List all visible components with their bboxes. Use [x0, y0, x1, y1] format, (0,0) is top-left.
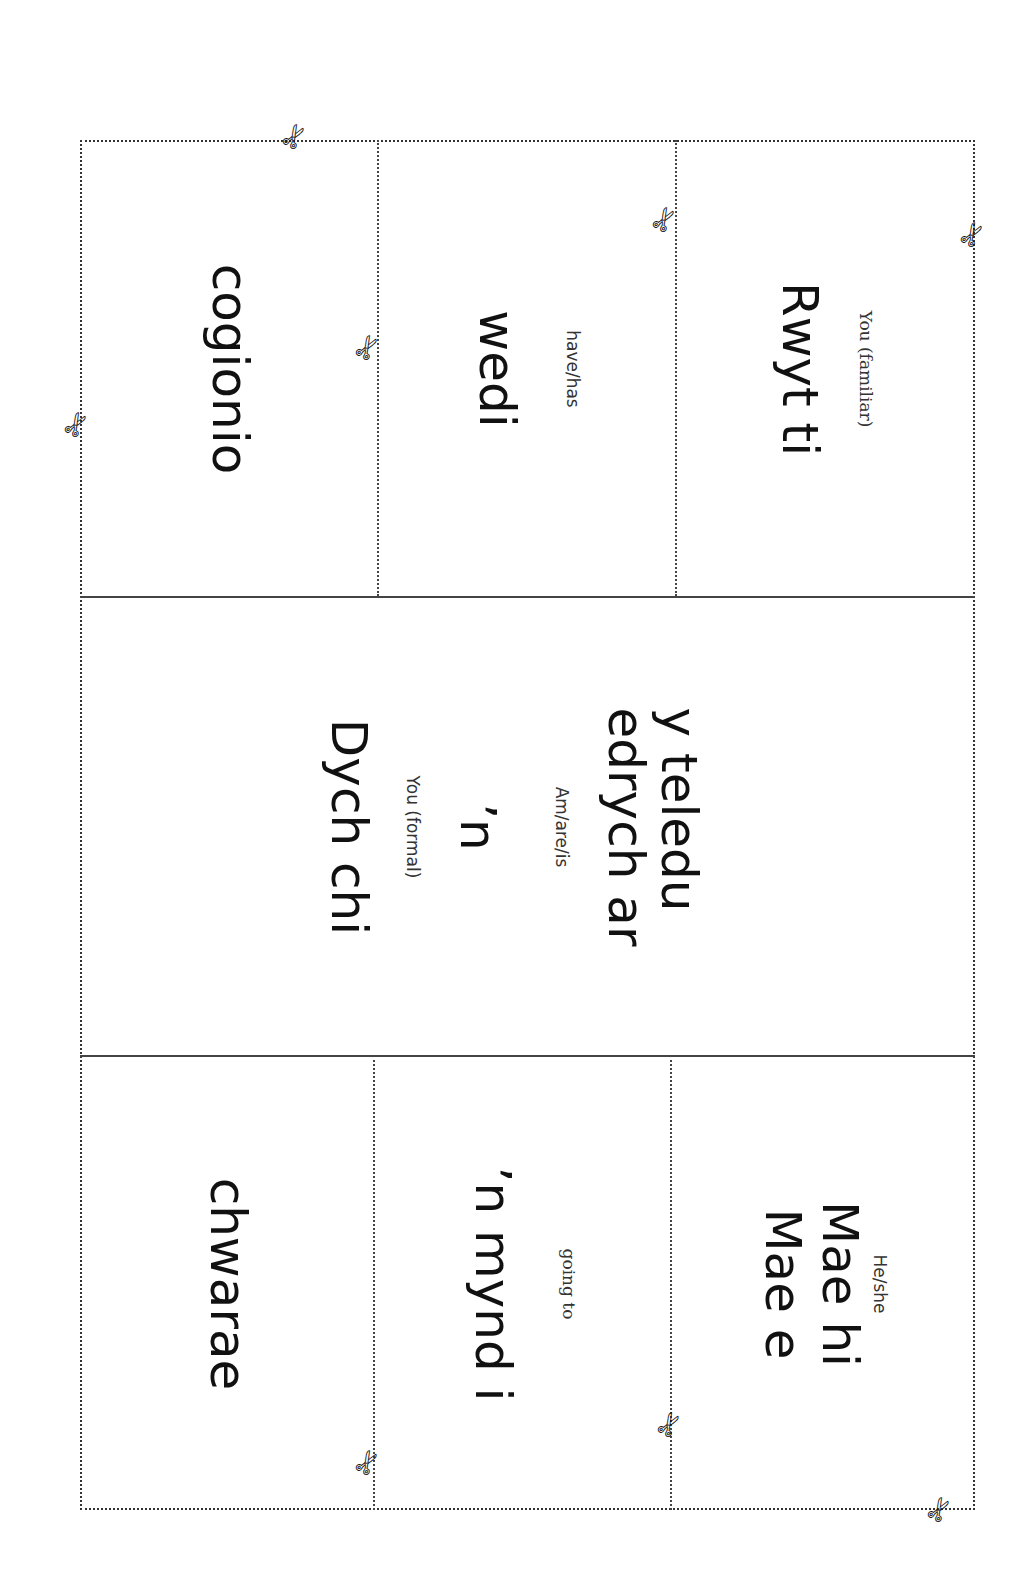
- card-n-mynd-i[interactable]: ’n mynd i going to: [375, 1057, 670, 1510]
- card-wedi[interactable]: wedi have/has: [379, 142, 675, 596]
- card-word-line1: Mae e: [756, 1208, 809, 1359]
- card-gloss: have/has: [563, 330, 583, 408]
- card-activity-line1: edrych ar: [600, 707, 653, 946]
- card-activity-line2: y teledu: [652, 707, 705, 911]
- card-activity: edrych ar y teledu: [600, 707, 705, 946]
- card-chwarae[interactable]: chwarae: [82, 1057, 373, 1510]
- card-word: Rwyt ti: [774, 282, 827, 456]
- card-rwyt-ti[interactable]: Rwyt ti You (familiar): [677, 142, 973, 596]
- card-gloss: going to: [559, 1248, 579, 1319]
- card-mae-e-mae-hi[interactable]: Mae e Mae hi He/she: [672, 1057, 973, 1510]
- card-word: chwarae: [201, 1177, 254, 1390]
- card-gloss-verb: Am/are/is: [552, 786, 572, 867]
- card-gloss: You (familiar): [856, 311, 876, 428]
- card-word-subject: Dych chi: [323, 718, 376, 934]
- card-cogionio[interactable]: cogionio: [82, 142, 377, 596]
- card-gloss: He/she: [869, 1254, 889, 1313]
- card-word: wedi: [471, 310, 524, 427]
- card-gloss-subject: You (formal): [403, 775, 423, 878]
- card-word: ’n mynd i: [466, 1166, 519, 1401]
- card-word: cogionio: [203, 264, 256, 474]
- card-dych-chi-n-edrych[interactable]: Dych chi You (formal) ’n Am/are/is edryc…: [82, 598, 973, 1055]
- card-word-verb: ’n: [451, 803, 504, 851]
- card-word-line2: Mae hi: [813, 1200, 866, 1366]
